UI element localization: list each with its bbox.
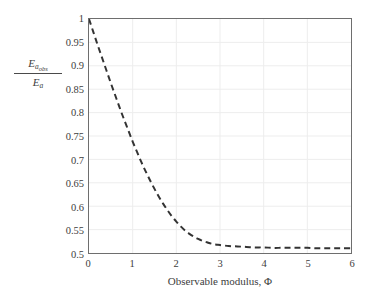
y-axis-tick-label: 0.75 [50, 131, 84, 142]
x-axis-tick-label: 3 [208, 258, 232, 269]
y-axis-tick-label: 1 [50, 13, 84, 24]
plot-area [88, 18, 352, 254]
x-axis-tick-label: 6 [340, 258, 364, 269]
y-axis-tick-label: 0.55 [50, 225, 84, 236]
y-axis-tick-label: 0.8 [50, 107, 84, 118]
y-axis-tick-label: 0.65 [50, 178, 84, 189]
y-axis-tick-labels: 0.50.550.60.650.70.750.80.850.90.951 [48, 0, 84, 298]
y-axis-tick-label: 0.95 [50, 36, 84, 47]
y-axis-tick-label: 0.7 [50, 154, 84, 165]
x-axis-tick-label: 2 [164, 258, 188, 269]
x-axis-tick-label: 5 [296, 258, 320, 269]
y-axis-tick-label: 0.6 [50, 201, 84, 212]
x-axis-tick-label: 4 [252, 258, 276, 269]
x-axis-tick-label: 0 [76, 258, 100, 269]
y-axis-tick-label: 0.85 [50, 83, 84, 94]
x-axis-tick-label: 1 [120, 258, 144, 269]
y-axis-tick-label: 0.9 [50, 60, 84, 71]
x-axis-label: Observable modulus, Φ [88, 275, 352, 287]
plot-canvas [89, 19, 351, 253]
chart-figure: Eaobs Ea 0.50.550.60.650.70.750.80.850.9… [0, 0, 378, 298]
x-axis-tick-labels: 0123456 [0, 258, 378, 274]
